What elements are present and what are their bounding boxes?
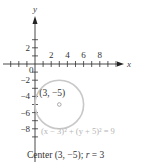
y-tick-label: −8 <box>20 124 30 134</box>
caption: Center (3, −5); r = 3 <box>27 150 104 160</box>
x-tick-label: 8 <box>98 50 103 60</box>
x-tick-label: 6 <box>81 50 86 60</box>
y-axis-label: y <box>32 4 37 14</box>
y-axis-arrow-icon <box>33 16 38 24</box>
equation-label: (x − 3)² + (y + 5)² = 9 <box>41 126 115 136</box>
x-axis-label: x <box>126 59 131 69</box>
x-tick-label: 4 <box>65 50 70 60</box>
caption-suffix: = 3 <box>89 150 104 160</box>
y-tick-label: 2 <box>26 43 31 53</box>
y-tick-label: −6 <box>20 108 30 118</box>
caption-prefix: Center (3, −5); <box>27 150 86 160</box>
coordinate-plane: 24682−2−4−6−8 x y 0 (3, −5) (x − 3)² + (… <box>0 0 146 168</box>
origin-label: 0 <box>29 65 34 75</box>
center-label: (3, −5) <box>39 88 65 99</box>
circle-center-point <box>58 103 62 107</box>
x-tick-label: 2 <box>49 50 54 60</box>
y-tick-label: −4 <box>20 91 30 101</box>
y-tick-label: −2 <box>20 75 30 85</box>
x-axis-arrow-icon <box>117 62 124 67</box>
